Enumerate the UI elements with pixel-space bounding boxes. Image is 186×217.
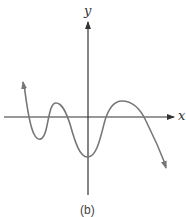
graph-canvas xyxy=(0,0,186,217)
left-arrow-icon xyxy=(23,82,24,88)
figure-caption: (b) xyxy=(80,204,95,216)
y-axis-label: y xyxy=(84,4,91,17)
right-arrow-icon xyxy=(164,162,166,168)
x-axis-label: x xyxy=(178,109,185,122)
function-curve xyxy=(24,84,166,166)
